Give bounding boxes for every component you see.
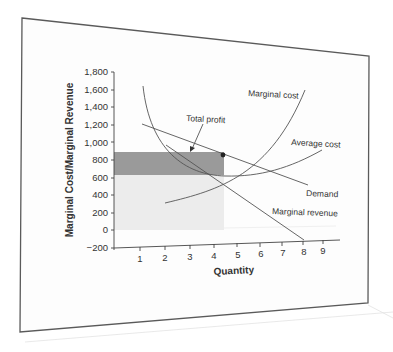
y-tick: −200 bbox=[87, 242, 108, 253]
profit-max-point bbox=[221, 153, 226, 158]
y-tick: 1,200 bbox=[84, 119, 108, 130]
x-tick: 7 bbox=[280, 247, 285, 258]
y-tick: 600 bbox=[92, 172, 108, 183]
x-tick: 9 bbox=[320, 245, 325, 256]
y-tick: 1,800 bbox=[84, 66, 108, 77]
x-tick: 2 bbox=[162, 252, 167, 263]
x-tick: 6 bbox=[258, 248, 263, 259]
y-tick: 1,400 bbox=[84, 101, 108, 112]
x-axis-title: Quantity bbox=[213, 264, 255, 277]
y-tick: 800 bbox=[92, 154, 108, 165]
y-tick: 400 bbox=[92, 189, 108, 200]
x-tick: 4 bbox=[211, 250, 216, 261]
y-tick: 200 bbox=[92, 207, 108, 218]
chart-board: 1,800 1,600 1,400 1,200 1,000 800 600 40… bbox=[0, 0, 393, 352]
x-tick: 1 bbox=[137, 253, 142, 264]
y-tick: 1,600 bbox=[84, 84, 108, 95]
y-tick: 1,000 bbox=[84, 137, 108, 148]
total-profit-label: Total profit bbox=[186, 113, 226, 125]
y-axis-title: Marginal Cost/Marginal Revenue bbox=[64, 82, 75, 237]
demand-label: Demand bbox=[306, 188, 339, 199]
x-tick: 5 bbox=[235, 249, 240, 260]
y-tick: 0 bbox=[103, 224, 108, 235]
x-tick: 8 bbox=[301, 246, 306, 257]
x-tick: 3 bbox=[187, 251, 192, 262]
total-profit-area bbox=[114, 152, 224, 175]
